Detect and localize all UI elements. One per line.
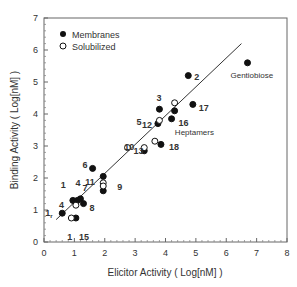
- point-label: 13: [134, 146, 144, 156]
- y-tick-label: 3: [33, 141, 38, 151]
- solubilized-point: [100, 183, 106, 189]
- solubilized-point: [68, 215, 74, 221]
- point-label: 1: [61, 180, 66, 190]
- point-label: 5: [136, 117, 141, 127]
- y-tick-label: 2: [33, 173, 38, 183]
- legend: Membranes Solubilized: [60, 30, 120, 52]
- point-label: 4: [59, 200, 64, 210]
- x-tick-label: 7: [254, 248, 259, 258]
- membrane-point: [59, 210, 65, 216]
- legend-open-marker-icon: [60, 43, 66, 49]
- membrane-point: [158, 141, 164, 147]
- x-tick-label: 2: [102, 248, 107, 258]
- y-tick-label: 1: [33, 205, 38, 215]
- membrane-point: [156, 106, 162, 112]
- point-label: Heptamers: [175, 128, 214, 137]
- solubilized-point: [152, 138, 158, 144]
- solubilized-point: [156, 117, 162, 123]
- point-label: 9: [117, 182, 122, 192]
- membrane-point: [172, 108, 178, 114]
- x-axis-label: Elicitor Activity ( Log[nM] ): [107, 267, 222, 278]
- solubilized-point: [73, 202, 79, 208]
- point-label: 16: [179, 118, 189, 128]
- point-label: 18: [169, 142, 179, 152]
- point-label: Gentiobiose: [231, 71, 274, 80]
- point-label: 15: [79, 232, 89, 242]
- x-tick-label: 1: [72, 248, 77, 258]
- scatter-chart: 012345678 01234567 Elicitor Activity ( L…: [0, 0, 297, 287]
- x-tick-label: 0: [41, 248, 46, 258]
- point-label: 12: [142, 120, 152, 130]
- point-label: 6: [83, 160, 88, 170]
- membrane-point: [169, 116, 175, 122]
- legend-membranes-label: Membranes: [72, 30, 120, 40]
- membrane-point: [80, 201, 86, 207]
- point-label: 3: [157, 93, 162, 103]
- x-tick-label: 5: [193, 248, 198, 258]
- point-labels: Gentiobiose2171612186781r1535Heptamers10…: [45, 71, 274, 242]
- y-tick-label: 7: [33, 13, 38, 23]
- point-label: 8: [89, 203, 94, 213]
- x-tick-label: 4: [163, 248, 168, 258]
- point-label: 4: [75, 178, 80, 188]
- data-points: [59, 60, 250, 221]
- x-tick-label: 3: [133, 248, 138, 258]
- membrane-point: [185, 73, 191, 79]
- point-label: 11: [85, 177, 95, 187]
- y-tick-label: 0: [33, 237, 38, 247]
- x-tick-label: 8: [284, 248, 289, 258]
- legend-filled-marker-icon: [60, 31, 66, 37]
- plot-frame: [44, 18, 287, 242]
- membrane-point: [245, 60, 251, 66]
- point-label: 17: [199, 103, 209, 113]
- point-label: 2: [194, 72, 199, 82]
- y-tick-label: 4: [33, 109, 38, 119]
- point-label: 1: [67, 232, 72, 242]
- x-tick-label: 6: [224, 248, 229, 258]
- y-tick-label: 5: [33, 77, 38, 87]
- membrane-point: [100, 173, 106, 179]
- membrane-point: [90, 165, 96, 171]
- y-tick-label: 6: [33, 45, 38, 55]
- membrane-point: [190, 101, 196, 107]
- legend-solubilized-label: Solubilized: [72, 42, 116, 52]
- point-label: 1r: [45, 208, 53, 219]
- y-axis-label: Binding Activity ( Log[nM] ): [9, 71, 20, 189]
- solubilized-point: [172, 100, 178, 106]
